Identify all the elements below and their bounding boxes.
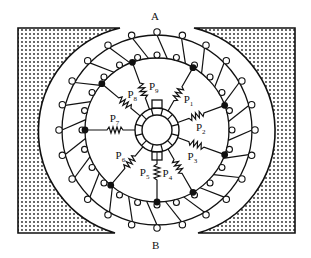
coil-end-outer xyxy=(179,32,185,38)
coil-end-outer xyxy=(179,221,185,227)
coil-end-outer xyxy=(69,78,75,84)
tap-point-4 xyxy=(190,189,197,196)
coil-end-outer xyxy=(203,212,209,218)
pole-label-b: B xyxy=(152,239,159,251)
coil-end-inner xyxy=(82,146,88,152)
pole-label-a: A xyxy=(151,10,159,22)
coil-end-inner xyxy=(82,108,88,114)
tap-point-2 xyxy=(221,102,228,109)
tap-point-9 xyxy=(129,59,136,66)
coil-end-inner xyxy=(219,90,225,96)
coil-end-outer xyxy=(59,101,65,107)
coil-end-outer xyxy=(252,127,258,133)
coil-end-outer xyxy=(203,42,209,48)
coil-end-inner xyxy=(135,55,141,61)
coil-end-outer xyxy=(154,225,160,231)
coil-end-inner xyxy=(226,146,232,152)
commutator-inner xyxy=(142,115,172,145)
coil-end-inner xyxy=(89,165,95,171)
coil-end-inner xyxy=(101,74,107,80)
coil-end-outer xyxy=(105,212,111,218)
coil-end-outer xyxy=(154,29,160,35)
coil-end-inner xyxy=(135,199,141,205)
coil-end-outer xyxy=(239,176,245,182)
coil-end-outer xyxy=(223,196,229,202)
coil-end-inner xyxy=(89,90,95,96)
tap-point-1 xyxy=(190,64,197,71)
coil-end-inner xyxy=(101,180,107,186)
coil-end-outer xyxy=(59,152,65,158)
coil-end-outer xyxy=(239,78,245,84)
coil-end-inner xyxy=(226,108,232,114)
coil-end-outer xyxy=(105,42,111,48)
coil-end-outer xyxy=(128,32,134,38)
coil-end-inner xyxy=(173,55,179,61)
coil-end-outer xyxy=(248,101,254,107)
coil-end-inner xyxy=(154,52,160,58)
coil-end-inner xyxy=(207,180,213,186)
coil-end-outer xyxy=(248,152,254,158)
coil-end-outer xyxy=(56,127,62,133)
coil-end-outer xyxy=(128,221,134,227)
coil-end-inner xyxy=(117,62,123,68)
coil-end-outer xyxy=(85,196,91,202)
tap-point-8 xyxy=(98,80,105,87)
tap-point-5 xyxy=(154,199,161,206)
tap-point-3 xyxy=(221,151,228,158)
coil-end-inner xyxy=(173,199,179,205)
coil-end-outer xyxy=(69,176,75,182)
coil-end-inner xyxy=(219,165,225,171)
tap-point-6 xyxy=(107,182,114,189)
coil-end-outer xyxy=(223,58,229,64)
tap-point-7 xyxy=(82,127,89,134)
coil-end-outer xyxy=(85,58,91,64)
brush-top xyxy=(152,100,162,108)
coil-end-inner xyxy=(229,127,235,133)
coil-end-inner xyxy=(117,192,123,198)
coil-end-inner xyxy=(207,74,213,80)
armature-diagram: A B P1P2P3P4P5P6P7P8P9 xyxy=(0,0,311,258)
